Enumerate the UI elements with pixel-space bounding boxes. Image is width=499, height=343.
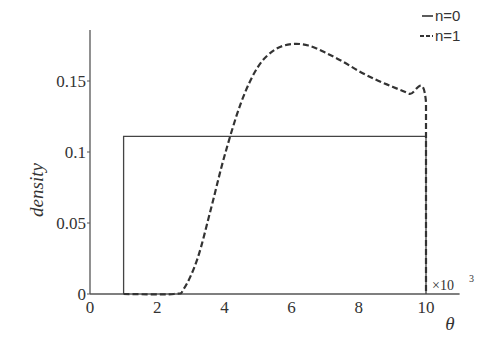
x-axis-label: θ <box>445 313 454 334</box>
series-n1-line <box>124 44 426 295</box>
x-tick-label: 6 <box>287 298 296 317</box>
y-tick-label: 0.1 <box>65 143 86 162</box>
series-n0-line <box>124 136 426 294</box>
x-tick-label: 10 <box>418 298 435 317</box>
legend-label: n=1 <box>435 27 460 44</box>
x-multiplier: ×10 <box>432 278 454 293</box>
x-tick-label: 8 <box>355 298 364 317</box>
x-tick-label: 4 <box>220 298 229 317</box>
y-axis-label: density <box>26 163 47 217</box>
legend: n=0n=1 <box>420 7 460 44</box>
density-chart: 00.050.10.150246810densityθ×103 n=0n=1 <box>0 0 499 343</box>
x-multiplier-exp: 3 <box>469 273 474 284</box>
x-tick-label: 2 <box>153 298 162 317</box>
x-tick-label: 0 <box>86 298 95 317</box>
series-lines <box>124 44 426 295</box>
y-tick-label: 0.15 <box>56 72 86 91</box>
y-tick-label: 0 <box>78 285 87 304</box>
y-tick-label: 0.05 <box>56 214 86 233</box>
axes: 00.050.10.150246810densityθ×103 <box>26 30 474 334</box>
legend-label: n=0 <box>435 7 460 24</box>
